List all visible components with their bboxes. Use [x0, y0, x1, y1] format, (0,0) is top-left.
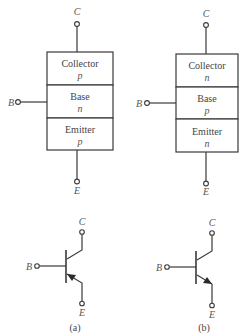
- symbol-emitter-terminal-icon: [210, 303, 215, 308]
- emitter-layer-name: Emitter: [192, 126, 223, 137]
- pnp-layer-structure: C Collector p Base n Emitter p B E: [8, 6, 113, 196]
- symbol-collector-lead: [197, 236, 212, 261]
- collector-doping: n: [205, 72, 210, 83]
- emitter-layer-name: Emitter: [65, 124, 96, 135]
- pnp-transistor-symbol: C B E: [26, 216, 86, 318]
- symbol-emitter-lead: [67, 274, 82, 301]
- panel-b: C Collector n Base p Emitter n B E C: [136, 8, 238, 334]
- collector-terminal-label: C: [203, 8, 210, 19]
- base-doping: p: [204, 105, 210, 116]
- caption-a: (a): [69, 322, 80, 334]
- symbol-base-terminal-icon: [35, 264, 40, 269]
- panel-a: C Collector p Base n Emitter p B E C: [8, 6, 113, 334]
- emitter-terminal-icon: [75, 179, 80, 184]
- symbol-collector-lead: [67, 235, 82, 260]
- symbol-collector-label: C: [79, 216, 86, 227]
- emitter-arrow-icon: [67, 274, 76, 281]
- base-layer-name: Base: [197, 93, 217, 104]
- emitter-terminal-label: E: [202, 186, 209, 197]
- collector-doping: p: [77, 70, 83, 81]
- bjt-structure-diagram: C Collector p Base n Emitter p B E C: [0, 0, 239, 336]
- base-terminal-label: B: [8, 97, 14, 108]
- symbol-collector-terminal-icon: [210, 231, 215, 236]
- base-terminal-icon: [16, 100, 21, 105]
- base-doping: n: [78, 103, 83, 114]
- symbol-base-label: B: [156, 262, 162, 273]
- caption-b: (b): [198, 322, 210, 334]
- npn-transistor-symbol: C B E: [156, 217, 216, 320]
- collector-layer-name: Collector: [188, 60, 226, 71]
- symbol-collector-label: C: [209, 217, 216, 228]
- symbol-collector-terminal-icon: [80, 230, 85, 235]
- symbol-emitter-label: E: [208, 309, 215, 320]
- symbol-emitter-terminal-icon: [80, 301, 85, 306]
- collector-terminal-label: C: [74, 6, 81, 17]
- emitter-arrow-icon: [203, 277, 212, 284]
- symbol-emitter-label: E: [78, 307, 85, 318]
- symbol-emitter-lead: [197, 275, 212, 303]
- base-terminal-icon: [145, 101, 150, 106]
- emitter-doping: p: [77, 136, 83, 147]
- npn-layer-structure: C Collector n Base p Emitter n B E: [136, 8, 238, 197]
- collector-terminal-icon: [75, 22, 80, 27]
- emitter-terminal-label: E: [73, 185, 80, 196]
- collector-layer-name: Collector: [61, 58, 99, 69]
- base-terminal-label: B: [136, 98, 142, 109]
- emitter-doping: n: [205, 138, 210, 149]
- symbol-base-label: B: [26, 261, 32, 272]
- collector-terminal-icon: [204, 23, 209, 28]
- symbol-base-terminal-icon: [165, 265, 170, 270]
- base-layer-name: Base: [70, 91, 90, 102]
